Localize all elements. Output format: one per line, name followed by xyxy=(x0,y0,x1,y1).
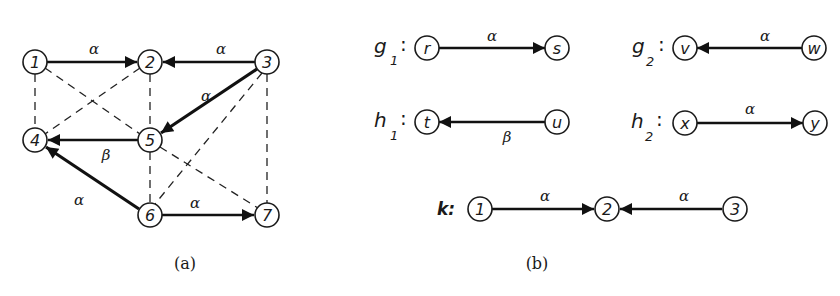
graph-name: g xyxy=(374,34,387,58)
graph-k: k: α α 1 2 3 xyxy=(437,187,747,221)
node-6: 6 xyxy=(138,203,162,227)
graph-subscript: 1 xyxy=(390,53,398,68)
graph-name: g xyxy=(632,34,645,58)
edge-label: α xyxy=(679,187,689,205)
node-x: x xyxy=(679,114,690,133)
node-k2: 2 xyxy=(602,200,612,219)
graph-colon: : xyxy=(658,32,665,56)
edge-label: α xyxy=(760,27,770,45)
node-4: 4 xyxy=(23,128,47,152)
graph-subscript: 2 xyxy=(646,54,654,69)
graph-subscript: 1 xyxy=(390,128,398,143)
caption-b: (b) xyxy=(526,254,549,273)
graph-colon: : xyxy=(656,107,663,131)
node-label: 1 xyxy=(30,53,40,72)
edge-6-to-4 xyxy=(46,147,139,209)
node-v: v xyxy=(680,39,690,58)
edge-label-6-4: α xyxy=(74,191,84,209)
edge-label: α xyxy=(540,187,550,205)
dashed-edge-5-7 xyxy=(160,147,258,208)
edge-label-3-5: α xyxy=(201,87,211,105)
graph-g2: g 2 : α v w xyxy=(632,27,826,69)
graph-g1: g 1 : α r s xyxy=(374,27,569,68)
graph-name: h xyxy=(631,109,644,133)
edge-label: α xyxy=(745,100,755,118)
node-k1: 1 xyxy=(475,200,485,219)
node-label: 4 xyxy=(30,131,40,150)
graph-colon: : xyxy=(400,106,407,130)
graph-colon: : xyxy=(400,32,407,56)
panel-b: g 1 : α r s g 2 : α v w h 1 : xyxy=(374,27,827,273)
edge-label-5-4: β xyxy=(101,146,111,164)
edge-label-3-2: α xyxy=(216,40,226,58)
node-w: w xyxy=(807,39,821,58)
node-label: 6 xyxy=(145,206,155,225)
node-7: 7 xyxy=(255,203,279,227)
node-y: y xyxy=(809,114,820,133)
caption-a: (a) xyxy=(174,254,196,273)
node-s: s xyxy=(553,39,561,58)
figure-canvas: α α α β α α 1 2 3 4 5 6 xyxy=(0,0,840,296)
graph-subscript: 2 xyxy=(645,129,653,144)
node-5: 5 xyxy=(138,128,162,152)
edge-label-6-7: α xyxy=(190,194,200,212)
edge-label: α xyxy=(487,27,497,45)
panel-a: α α α β α α 1 2 3 4 5 6 xyxy=(23,40,279,273)
graph-name: h xyxy=(374,108,387,132)
edge-label: β xyxy=(502,128,512,146)
node-3: 3 xyxy=(255,50,279,74)
node-u: u xyxy=(552,113,562,132)
node-label: 5 xyxy=(145,131,155,150)
graph-h2: h 2 : α x y xyxy=(631,100,827,144)
node-k3: 3 xyxy=(730,200,740,219)
node-t: t xyxy=(424,113,431,132)
graph-name: k: xyxy=(437,199,455,219)
node-label: 7 xyxy=(262,206,273,225)
node-2: 2 xyxy=(138,50,162,74)
node-1: 1 xyxy=(23,50,47,74)
node-label: 2 xyxy=(145,53,155,72)
node-label: 3 xyxy=(262,53,272,72)
edge-label-1-2: α xyxy=(89,40,99,58)
graph-h1: h 1 : β t u xyxy=(374,106,569,146)
